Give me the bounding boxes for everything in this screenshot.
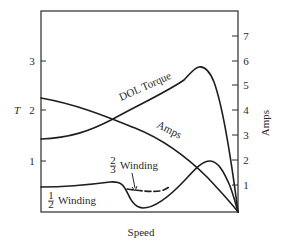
annotation-arrow <box>132 173 135 188</box>
half-denominator: 2 <box>48 198 54 210</box>
right-tick-label-1: 1 <box>243 179 249 191</box>
right-tick-label-5: 5 <box>243 79 249 91</box>
two-thirds-winding-text: Winding <box>120 159 159 171</box>
right-tick-label-7: 7 <box>243 30 249 42</box>
left-tick-label-2: 2 <box>29 104 35 116</box>
dol-torque-label: DOL Torque <box>117 69 173 103</box>
half-winding-text: Winding <box>58 194 97 206</box>
two-thirds-winding-label: 2 3 Winding <box>110 154 159 175</box>
plot-frame <box>41 11 238 212</box>
x-axis-label: Speed <box>128 226 155 238</box>
half-winding-label: 1 2 Winding <box>48 189 97 210</box>
right-tick-label-2: 2 <box>243 154 249 166</box>
right-tick-label-4: 4 <box>243 104 249 116</box>
y-axis-label-right: Amps <box>259 110 271 136</box>
right-tick-label-3: 3 <box>243 129 249 141</box>
amps-label: Amps <box>155 118 184 141</box>
two-thirds-denominator: 3 <box>110 163 116 175</box>
left-tick-label-3: 3 <box>29 55 35 67</box>
torque-speed-chart: 1 2 3 T 1 2 3 4 5 6 7 Amps Speed DOL Tor… <box>0 0 284 246</box>
left-tick-label-1: 1 <box>29 155 35 167</box>
right-tick-label-6: 6 <box>243 55 249 67</box>
y-axis-label-left: T <box>14 104 21 116</box>
